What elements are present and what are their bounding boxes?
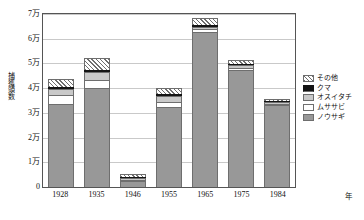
black-swatch xyxy=(303,85,314,92)
bar-1965[interactable] xyxy=(192,18,218,187)
y-tick-label: 0 xyxy=(14,183,40,191)
bar-1955[interactable] xyxy=(156,88,182,187)
legend-label: オスイタチ xyxy=(317,94,352,101)
y-tick-label: 1万 xyxy=(14,158,40,166)
white-swatch xyxy=(303,104,314,111)
x-tick-label: 1946 xyxy=(116,190,150,199)
y-tick-label: 4万 xyxy=(14,84,40,92)
legend-label: ノウサギ xyxy=(317,114,345,121)
bar-segment-ムササビ[interactable] xyxy=(48,95,74,105)
y-tick-label: 6万 xyxy=(14,35,40,43)
y-tick-label: 7万 xyxy=(14,10,40,18)
bar-segment-その他[interactable] xyxy=(84,58,110,70)
bar-segment-ムササビ[interactable] xyxy=(84,80,110,87)
x-tick-label: 1975 xyxy=(225,190,259,199)
legend-item-その他[interactable]: その他 xyxy=(303,74,363,84)
stacked-bar-chart: 捕獲頭数 01万2万3万4万5万6万7万 1928193519461955196… xyxy=(0,0,364,220)
y-tick-label: 3万 xyxy=(14,109,40,117)
legend-item-ムササビ[interactable]: ムササビ xyxy=(303,103,363,113)
x-axis-unit-label: 年 xyxy=(345,190,352,201)
legend: その他クマオスイタチムササビノウサギ xyxy=(303,74,363,122)
bar-segment-その他[interactable] xyxy=(48,79,74,87)
legend-label: ムササビ xyxy=(317,104,345,111)
y-tick-label: 5万 xyxy=(14,59,40,67)
bar-segment-ノウサギ[interactable] xyxy=(192,32,218,187)
bar-1928[interactable] xyxy=(48,79,74,187)
x-tick-label: 1965 xyxy=(188,190,222,199)
bar-group xyxy=(43,14,295,187)
bar-1935[interactable] xyxy=(84,58,110,187)
bar-segment-その他[interactable] xyxy=(192,18,218,25)
y-axis-tick-labels: 01万2万3万4万5万6万7万 xyxy=(12,0,40,220)
legend-item-オスイタチ[interactable]: オスイタチ xyxy=(303,93,363,103)
bar-1946[interactable] xyxy=(120,174,146,187)
legend-item-ノウサギ[interactable]: ノウサギ xyxy=(303,112,363,122)
x-tick-label: 1928 xyxy=(43,190,77,199)
x-tick-label: 1935 xyxy=(79,190,113,199)
bar-segment-ノウサギ[interactable] xyxy=(84,88,110,187)
plot-area xyxy=(42,13,296,188)
bar-1975[interactable] xyxy=(228,60,254,187)
bar-segment-ノウサギ[interactable] xyxy=(156,107,182,187)
x-axis-tick-labels: 1928193519461955196519751984 xyxy=(42,190,296,204)
legend-label: クマ xyxy=(317,85,331,92)
bar-1984[interactable] xyxy=(264,99,290,187)
hatch-swatch xyxy=(303,75,314,82)
bar-segment-ノウサギ[interactable] xyxy=(264,105,290,187)
x-tick-label: 1955 xyxy=(152,190,186,199)
legend-label: その他 xyxy=(317,75,338,82)
bar-segment-ノウサギ[interactable] xyxy=(228,70,254,187)
x-tick-label: 1984 xyxy=(261,190,295,199)
bar-segment-オスイタチ[interactable] xyxy=(84,72,110,81)
gray-swatch xyxy=(303,114,314,121)
lightgray-swatch xyxy=(303,94,314,101)
bar-segment-ノウサギ[interactable] xyxy=(120,181,146,187)
legend-item-クマ[interactable]: クマ xyxy=(303,84,363,94)
bar-segment-ノウサギ[interactable] xyxy=(48,104,74,187)
y-tick-label: 2万 xyxy=(14,134,40,142)
